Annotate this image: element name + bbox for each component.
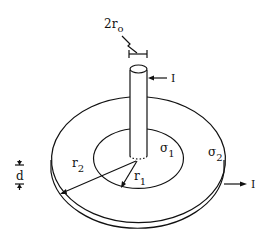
arrowhead (17, 184, 22, 188)
rod-diameter-label: 2ro (104, 17, 123, 34)
current-out-label: I (251, 178, 255, 191)
rod-base (130, 156, 147, 159)
arrowhead (60, 189, 67, 194)
thickness-label: d (16, 169, 24, 183)
r1-label: r1 (134, 169, 146, 187)
disk-diagram: 2ro I I σ1 σ2 r2 r1 d (0, 0, 270, 243)
arrowhead (148, 76, 154, 81)
sigma1-label: σ1 (160, 141, 175, 159)
rod-top (130, 65, 147, 73)
arrowhead (240, 182, 247, 187)
sigma2-label: σ2 (208, 145, 223, 163)
r2-label: r2 (72, 156, 84, 174)
current-in-label: I (171, 72, 175, 85)
